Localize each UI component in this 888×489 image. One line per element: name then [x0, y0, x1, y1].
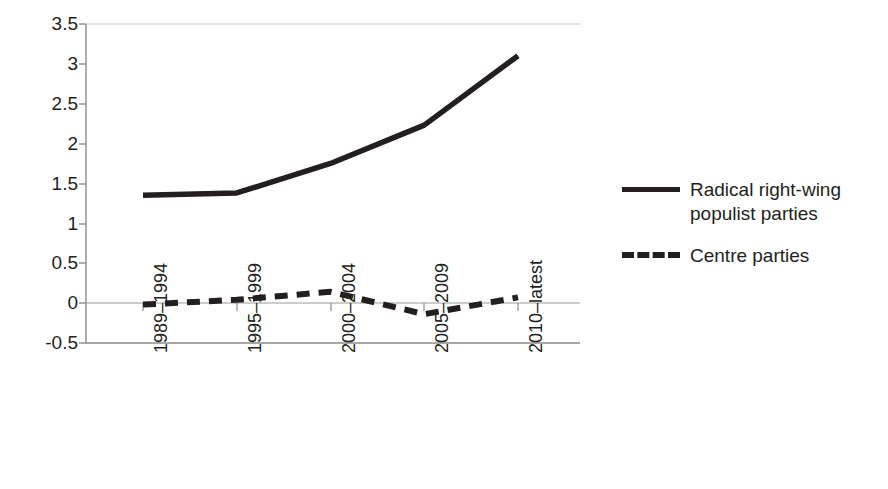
legend-label-centre-parties: Centre parties	[690, 244, 809, 268]
legend-item-centre-parties: Centre parties	[622, 244, 884, 268]
legend-label-line-1: Radical right-wing	[690, 179, 841, 200]
x-tick-label-4: 2010–latest	[527, 260, 545, 353]
legend-label-line-2: populist parties	[690, 203, 818, 224]
x-tick-label-0: 1989–1994	[152, 263, 170, 353]
legend-swatch-dashed-line-icon	[622, 244, 680, 266]
x-tick-label-3: 2005–2009	[433, 263, 451, 353]
series-line-radical-right-wing-populist-parties	[143, 56, 518, 196]
legend-label-radical-right-wing-populist-parties: Radical right-wingpopulist parties	[690, 178, 841, 226]
x-tick-label-2: 2000–2004	[340, 263, 358, 353]
chart-figure: 3.5 3 2.5 2 1.5 1 0.5 0 -0.5 1989–1994 1…	[0, 0, 888, 489]
legend-item-radical-right-wing-populist-parties: Radical right-wingpopulist parties	[622, 178, 884, 226]
y-tick-marks	[79, 24, 86, 343]
chart-legend: Radical right-wingpopulist parties Centr…	[622, 178, 884, 285]
x-tick-label-1: 1995–1999	[246, 263, 264, 353]
legend-swatch-solid-line-icon	[622, 178, 680, 200]
